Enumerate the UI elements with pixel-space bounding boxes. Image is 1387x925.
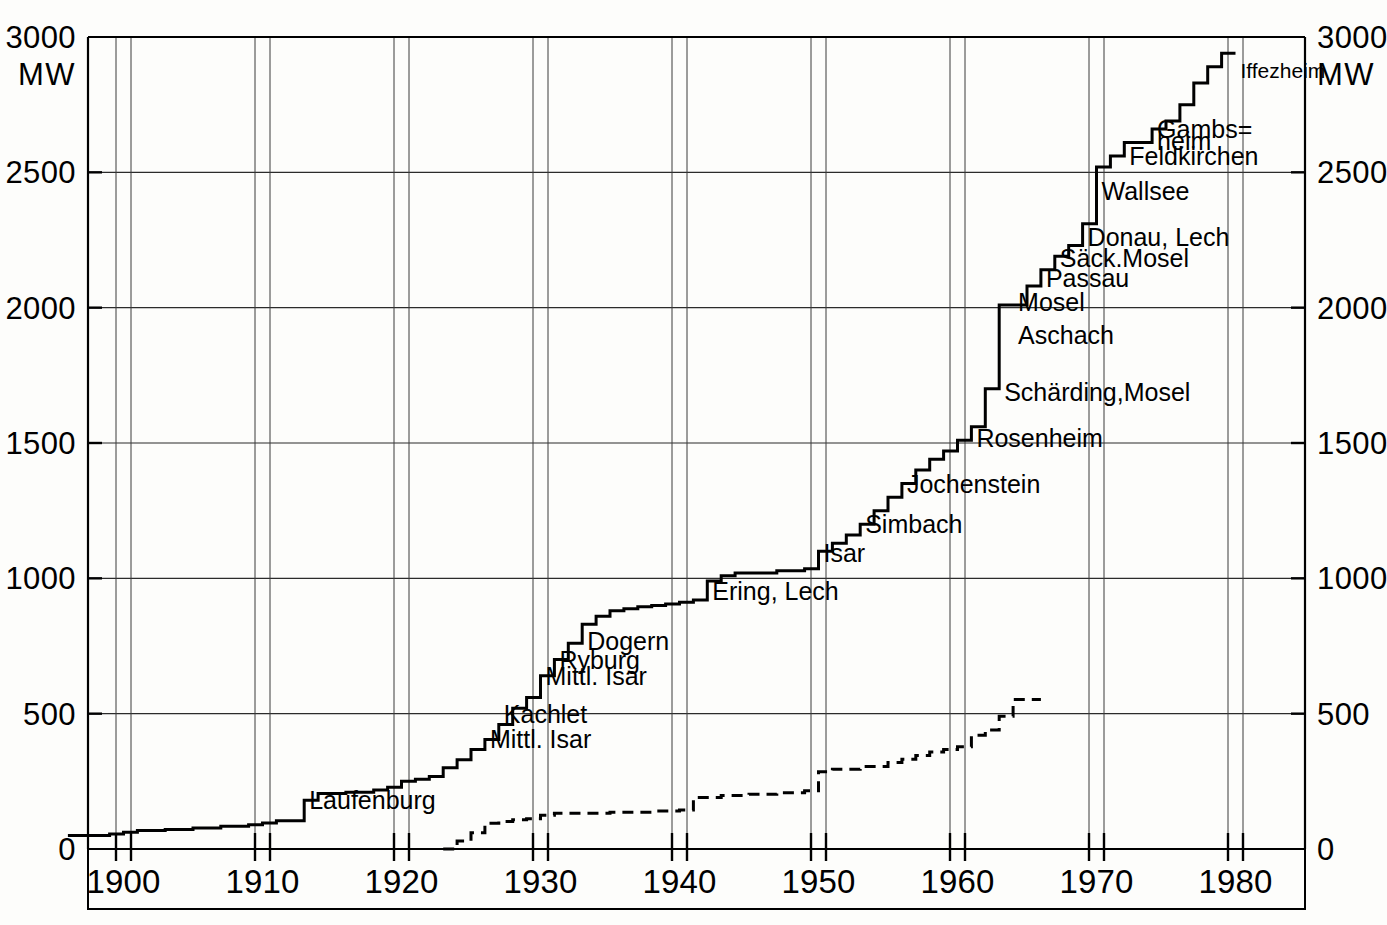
y-tick-label-left-1500: 1500 xyxy=(5,426,76,461)
x-tick-label-1930: 1930 xyxy=(503,863,577,900)
annotation-mosel: Mosel xyxy=(1018,288,1085,316)
gridlines-group xyxy=(88,37,1305,849)
y-tick-label-right-1500: 1500 xyxy=(1317,426,1387,461)
x-tick-label-1980: 1980 xyxy=(1198,863,1272,900)
y-tick-label-left-500: 500 xyxy=(23,697,76,732)
x-tick-label-1960: 1960 xyxy=(920,863,994,900)
y-tick-label-right-2500: 2500 xyxy=(1317,155,1387,190)
annotation-rosenheim: Rosenheim xyxy=(976,424,1102,452)
y-tick-label-right-500: 500 xyxy=(1317,697,1370,732)
chart-canvas: 0050050010001000150015002000200025002500… xyxy=(0,0,1387,925)
annotation-simbach: Simbach xyxy=(865,510,962,538)
annotation-jochenstein: Jochenstein xyxy=(907,470,1040,498)
x-tick-label-1970: 1970 xyxy=(1059,863,1133,900)
annotation-heim: heim xyxy=(1157,127,1211,155)
annotation-donau-lech: Donau, Lech xyxy=(1088,223,1230,251)
annotation-ering-lech: Ering, Lech xyxy=(712,577,838,605)
y-tick-label-right-3000: 3000 xyxy=(1317,20,1387,55)
annotation-sch-rding-mosel: Schärding,Mosel xyxy=(1004,378,1190,406)
y-tick-label-right-1000: 1000 xyxy=(1317,561,1387,596)
annotation-iffezheim: Iffezheim xyxy=(1241,59,1326,82)
annotation-aschach: Aschach xyxy=(1018,321,1114,349)
chart-svg: 0050050010001000150015002000200025002500… xyxy=(0,0,1387,925)
x-tick-label-1920: 1920 xyxy=(364,863,438,900)
chart-page: 0050050010001000150015002000200025002500… xyxy=(0,0,1387,925)
annotation-kachlet: Kachlet xyxy=(504,700,587,728)
y-axis-unit-right: MW xyxy=(1317,57,1375,92)
x-tick-label-1900: 1900 xyxy=(86,863,160,900)
y-tick-label-left-3000: 3000 xyxy=(5,20,76,55)
x-tick-label-1910: 1910 xyxy=(225,863,299,900)
axes-group xyxy=(88,37,1305,909)
y-axis-unit-left: MW xyxy=(18,57,76,92)
y-tick-label-right-2000: 2000 xyxy=(1317,291,1387,326)
annotation-isar: Isar xyxy=(824,539,866,567)
annotation-laufenburg: Laufenburg xyxy=(309,786,436,814)
y-tick-label-left-1000: 1000 xyxy=(5,561,76,596)
y-tick-label-left-2000: 2000 xyxy=(5,291,76,326)
annotation-dogern: Dogern xyxy=(587,627,669,655)
x-tick-label-1940: 1940 xyxy=(642,863,716,900)
y-tick-label-left-2500: 2500 xyxy=(5,155,76,190)
x-axis-labels-group: 190019101920193019401950196019701980 xyxy=(86,863,1272,900)
y-tick-label-left-0: 0 xyxy=(58,832,76,867)
y-tick-label-right-0: 0 xyxy=(1317,832,1335,867)
annotation-wallsee: Wallsee xyxy=(1102,177,1190,205)
annotation-mittl-isar: Mittl. Isar xyxy=(490,725,591,753)
x-tick-label-1950: 1950 xyxy=(781,863,855,900)
